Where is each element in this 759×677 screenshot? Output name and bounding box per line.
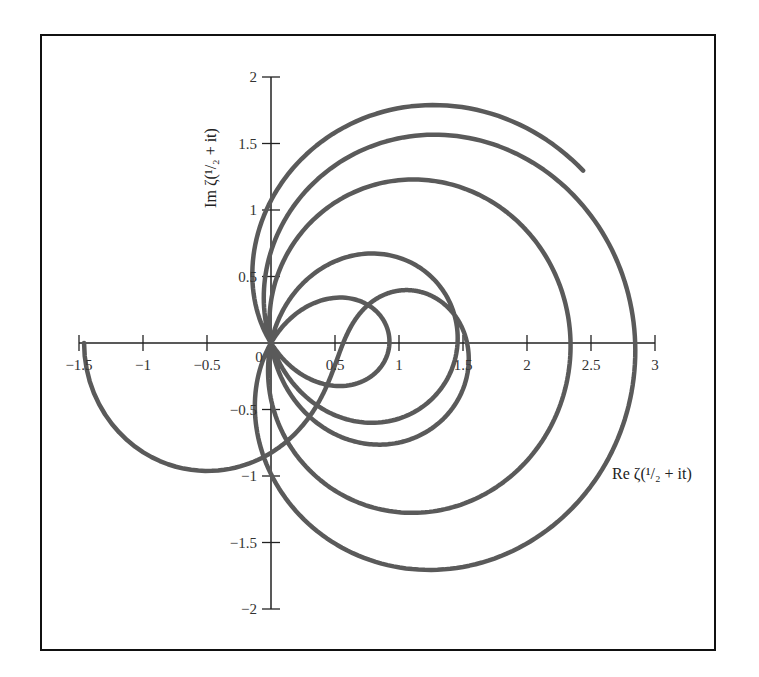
- zeta-curve: [84, 105, 635, 570]
- y-tick-label: 2: [250, 69, 258, 85]
- x-tick-label: −1: [135, 357, 151, 373]
- y-axis-title: Im ζ(¹/₂ + it): [202, 128, 220, 208]
- y-tick-label: −1.5: [230, 535, 257, 551]
- x-tick-label: 2.5: [582, 357, 601, 373]
- x-tick-label: 2: [523, 357, 531, 373]
- y-tick-label: −1: [241, 468, 257, 484]
- y-tick-label: 0.5: [238, 269, 257, 285]
- x-tick-label: 1: [395, 357, 403, 373]
- x-tick-label: −1.5: [65, 357, 92, 373]
- y-tick-label: 1.5: [238, 136, 257, 152]
- y-tick-label: −2: [241, 601, 257, 617]
- x-tick-label: 3: [651, 357, 659, 373]
- y-tick-label: −0.5: [230, 402, 257, 418]
- x-tick-label: −0.5: [193, 357, 220, 373]
- x-tick-label: 1.5: [454, 357, 473, 373]
- x-tick-label: 0.5: [326, 357, 345, 373]
- zeta-plot: −1.5−1−0.50.511.522.53−2−1.5−1−0.50.511.…: [0, 0, 759, 677]
- x-axis-title: Re ζ(¹/₂ + it): [612, 465, 692, 483]
- y-tick-label: 1: [250, 202, 258, 218]
- origin-label: 0: [255, 349, 263, 365]
